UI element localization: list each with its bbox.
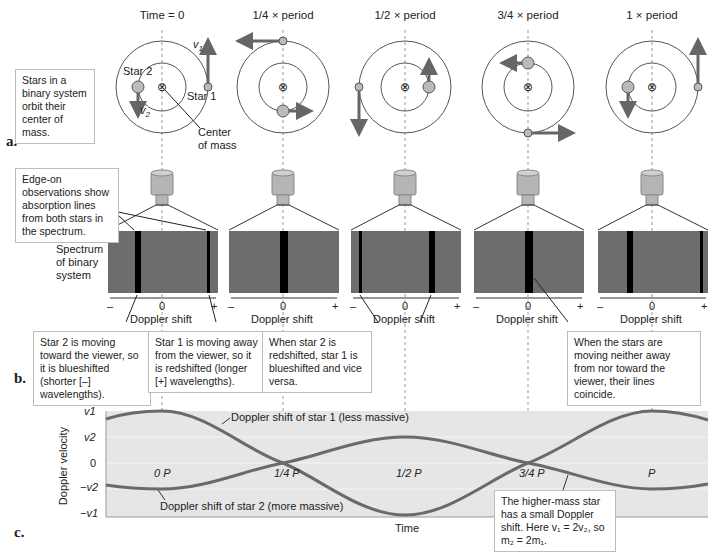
y-axis-label-wrap: Doppler velocity: [57, 425, 73, 505]
mass-note-callout: The higher-mass star has a small Doppler…: [494, 490, 616, 552]
x-tick-quarter: 1/4 P: [274, 467, 300, 479]
star1-curve-label: Doppler shift of star 1 (less massive): [231, 411, 409, 423]
y-tick-neg-v1: −v1: [80, 507, 98, 519]
x-tick-three-quarter: 3/4 P: [519, 467, 545, 479]
x-tick-half: 1/2 P: [396, 467, 422, 479]
panel-c-letter: c.: [14, 524, 24, 541]
x-tick-p: P: [648, 467, 655, 479]
x-tick-0p: 0 P: [154, 467, 171, 479]
star2-curve-label: Doppler shift of star 2 (more massive): [160, 500, 343, 512]
y-axis-label: Doppler velocity: [57, 425, 69, 507]
x-axis-label: Time: [395, 522, 419, 534]
y-tick-v2: v2: [84, 431, 96, 443]
y-tick-v1: v1: [84, 405, 96, 417]
y-tick-zero: 0: [90, 457, 96, 469]
y-tick-neg-v2: −v2: [80, 481, 98, 493]
